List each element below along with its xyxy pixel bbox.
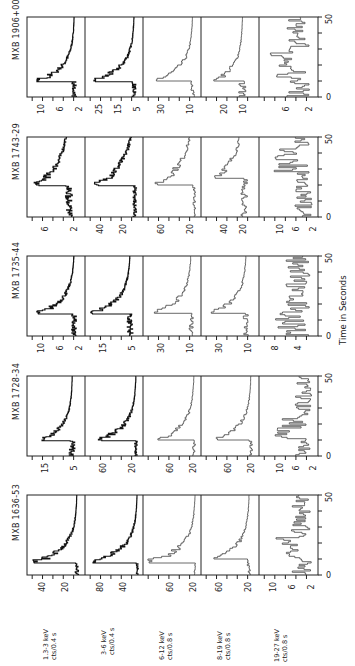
count-tick-label: 20: [244, 582, 253, 592]
count-tick-label: 30: [215, 343, 224, 353]
light-curve: [94, 17, 136, 97]
light-curve: [214, 17, 246, 97]
source-row: 0505152060206020602610: [27, 373, 334, 473]
source-row: 05026105151030103048: [27, 253, 334, 353]
band-label-2: 3-6 keV cts/0.4 s: [100, 628, 116, 656]
light-curve: [216, 376, 252, 456]
count-tick-label: 10: [244, 343, 253, 353]
light-curve: [37, 256, 77, 336]
count-tick-label: 20: [119, 224, 128, 234]
count-tick-label: 6: [41, 226, 50, 231]
band-label-1: 1.3-3 keV cts/0.4 s: [42, 629, 58, 660]
light-curve: [154, 256, 193, 336]
count-tick-label: 15: [99, 343, 108, 353]
time-tick: 50: [325, 253, 334, 263]
band-energy: 3-6 keV: [100, 628, 108, 656]
light-curve: [215, 137, 248, 217]
light-curve: [93, 495, 138, 575]
light-curve: [214, 495, 250, 575]
count-tick-label: 30: [157, 343, 166, 353]
count-tick-label: 4: [294, 345, 303, 350]
count-tick-label: 10: [276, 224, 285, 234]
count-tick-label: 15: [41, 463, 50, 473]
time-axis-title: Time in Seconds: [338, 275, 348, 345]
time-tick: 50: [325, 14, 334, 24]
count-tick-label: 10: [186, 104, 195, 114]
band-label-4: 8-19 keV cts/0.8 s: [216, 631, 232, 660]
light-curve: [95, 137, 137, 217]
count-tick-label: 2: [305, 106, 314, 111]
count-tick-label: 20: [61, 582, 70, 592]
count-tick-label: 10: [269, 582, 278, 592]
time-tick: 50: [325, 134, 334, 144]
band-energy: 6-12 keV: [158, 631, 166, 660]
source-title-1906: MXB 1906+00: [12, 0, 21, 60]
count-tick-label: 60: [157, 224, 166, 234]
count-tick-label: 6: [292, 226, 301, 231]
count-tick-label: 40: [119, 582, 128, 592]
count-tick-label: 20: [189, 582, 198, 592]
source-row: 050262040206020402610: [27, 134, 334, 234]
burst-light-curve-figure: 0502610515251030102026050262040206020402…: [0, 0, 355, 666]
count-tick-label: 5: [70, 465, 79, 470]
count-tick-label: 2: [75, 345, 84, 350]
count-tick-label: 80: [96, 582, 105, 592]
light-curve: [42, 376, 75, 456]
band-label-3: 6-12 keV cts/0.8 s: [158, 631, 174, 660]
light-curve: [275, 376, 311, 456]
count-tick-label: 10: [186, 343, 195, 353]
source-title-1636: MXB 1636-53: [12, 484, 21, 541]
time-tick: 0: [326, 213, 331, 222]
count-tick-label: 10: [37, 104, 46, 114]
count-tick-label: 20: [189, 463, 198, 473]
band-energy: 19-27 keV: [273, 629, 281, 662]
count-tick-label: 60: [224, 463, 233, 473]
band-units: cts/0.8 s: [224, 631, 232, 660]
band-units: cts/0.8 s: [166, 631, 174, 660]
count-tick-label: 5: [133, 106, 142, 111]
light-curve: [274, 137, 312, 217]
time-tick: 0: [326, 571, 331, 580]
time-tick: 0: [326, 452, 331, 461]
band-energy: 1.3-3 keV: [42, 629, 50, 660]
count-tick-label: 2: [309, 465, 318, 470]
count-tick-label: 10: [37, 343, 46, 353]
light-curve: [34, 137, 72, 217]
source-title-1743: MXB 1743-29: [12, 123, 21, 180]
time-tick: 50: [325, 492, 334, 502]
light-curve: [156, 17, 194, 97]
count-tick-label: 6: [282, 106, 291, 111]
light-curve: [276, 495, 311, 575]
time-tick: 0: [326, 93, 331, 102]
count-tick-label: 6: [56, 345, 65, 350]
light-curve: [270, 17, 309, 97]
time-tick: 0: [326, 332, 331, 341]
source-row: 05020404080206020602610: [27, 492, 334, 592]
count-tick-label: 5: [128, 345, 137, 350]
count-tick-label: 2: [307, 584, 316, 589]
source-row: 0502610515251030102026: [27, 14, 334, 114]
count-tick-label: 40: [220, 224, 229, 234]
count-tick-label: 20: [239, 224, 248, 234]
count-tick-label: 20: [186, 224, 195, 234]
count-tick-label: 8: [271, 345, 280, 350]
source-title-1728: MXB 1728-34: [12, 363, 21, 420]
light-curve: [33, 495, 79, 575]
count-tick-label: 2: [75, 106, 84, 111]
count-tick-label: 60: [166, 582, 175, 592]
count-tick-label: 40: [96, 224, 105, 234]
count-tick-label: 10: [276, 463, 285, 473]
band-energy: 8-19 keV: [216, 631, 224, 660]
band-label-5: 19-27 keV cts/0.8 s: [273, 629, 289, 662]
count-tick-label: 15: [114, 104, 123, 114]
light-curve: [37, 17, 77, 97]
count-tick-label: 40: [38, 582, 47, 592]
count-tick-label: 2: [309, 226, 318, 231]
count-tick-label: 2: [70, 226, 79, 231]
band-units: cts/0.4 s: [50, 629, 58, 660]
count-tick-label: 6: [292, 465, 301, 470]
count-tick-label: 20: [128, 463, 137, 473]
light-curve: [276, 256, 310, 336]
count-tick-label: 25: [95, 104, 104, 114]
light-curve: [158, 376, 195, 456]
